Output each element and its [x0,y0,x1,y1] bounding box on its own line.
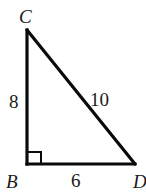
triangle-diagram: C B D 8 10 6 [0,0,146,195]
side-cd [27,30,135,164]
vertex-label-c: C [19,6,32,27]
side-label-cb: 8 [9,91,19,112]
side-label-bd: 6 [71,170,81,191]
right-angle-marker [27,152,41,164]
vertex-label-b: B [6,171,18,192]
side-label-cd: 10 [90,89,109,110]
vertex-label-d: D [132,171,146,192]
